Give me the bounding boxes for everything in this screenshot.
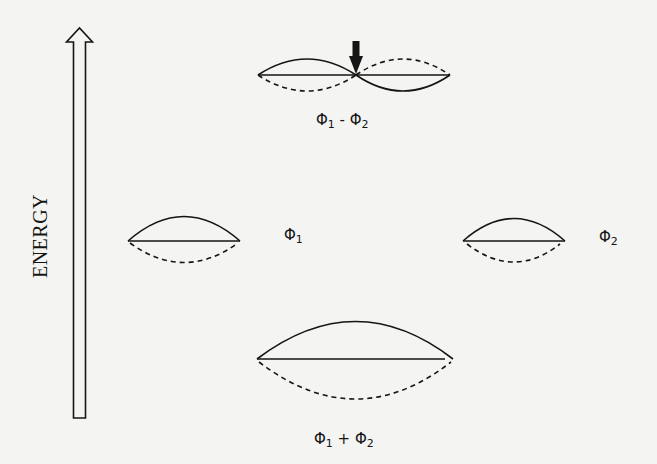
energy-axis-label: ENERGY xyxy=(29,194,52,278)
lobe-negative-right xyxy=(356,59,450,75)
phi2-orbital xyxy=(463,219,565,263)
phi1-label: Φ1 xyxy=(284,228,303,245)
antibonding-label: Φ1 - Φ2 xyxy=(316,113,369,130)
lobe-negative-left xyxy=(258,75,356,91)
phi2-label: Φ2 xyxy=(599,230,618,247)
lobe-positive-left xyxy=(258,59,356,75)
lobe-positive-right xyxy=(356,75,450,91)
lobe-negative xyxy=(259,362,451,399)
lobe-positive xyxy=(128,217,240,242)
down-arrow-icon xyxy=(349,41,363,74)
lobe-negative xyxy=(467,244,560,262)
lobe-positive xyxy=(257,322,453,360)
bonding-orbital xyxy=(257,322,453,400)
lobe-negative xyxy=(130,243,238,263)
orbital-diagram xyxy=(0,0,657,464)
hollow-up-arrow-icon xyxy=(67,28,93,418)
lobe-positive xyxy=(463,219,565,242)
bonding-label: Φ1 + Φ2 xyxy=(314,432,374,449)
phi1-orbital xyxy=(128,217,240,263)
